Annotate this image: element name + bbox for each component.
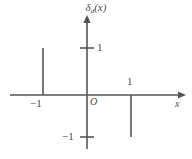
x-axis-arrowhead [178, 91, 186, 98]
origin-label: O [90, 97, 97, 107]
x-axis-label: x [175, 99, 179, 109]
x-tick-label-negative-one: −1 [30, 98, 42, 109]
y-tick-label-negative-one: −1 [62, 131, 74, 142]
x-tick-label-positive-one: 1 [127, 76, 133, 87]
figure-canvas: δd(x) 1 −1 −1 1 O x [0, 0, 192, 159]
plot-area [0, 0, 192, 159]
function-label-argument: (x) [94, 1, 106, 13]
y-tick-label-positive-one: 1 [97, 42, 103, 53]
function-label: δd(x) [0, 2, 192, 15]
y-axis-arrowhead [83, 15, 90, 23]
